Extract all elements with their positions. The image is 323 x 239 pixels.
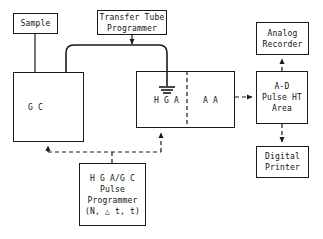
node-hga-gc-pulse-programmer-line1: H G A/G C — [90, 173, 135, 184]
node-ad-line3: Area — [272, 103, 292, 114]
connector-transfer-tube — [66, 45, 167, 72]
node-sample[interactable]: Sample — [13, 13, 58, 34]
node-transfer-tube-programmer-line2: Programmer — [107, 23, 157, 34]
node-hga-gc-pulse-programmer-line2: Pulse — [100, 184, 125, 195]
node-gc-label: G C — [14, 102, 43, 113]
node-gc[interactable]: G C — [13, 72, 84, 142]
node-hga-aa[interactable]: H G A A A — [136, 71, 235, 128]
node-transfer-tube-programmer[interactable]: Transfer Tube Programmer — [97, 10, 167, 35]
node-aa-label: A A — [203, 94, 218, 105]
node-transfer-tube-programmer-line1: Transfer Tube — [99, 12, 164, 23]
node-sample-label: Sample — [20, 18, 50, 29]
node-analog-recorder[interactable]: Analog Recorder — [256, 22, 309, 55]
node-hga-gc-pulse-programmer-line4: (N, △ t, t) — [85, 206, 140, 217]
node-ad-line1: A-D — [274, 81, 289, 92]
block-diagram-canvas: Sample Transfer Tube Programmer G C H G … — [0, 0, 323, 239]
node-hga-gc-pulse-programmer[interactable]: H G A/G C Pulse Programmer (N, △ t, t) — [79, 163, 146, 226]
node-hga-gc-pulse-programmer-line3: Programmer — [87, 195, 137, 206]
node-digital-printer[interactable]: Digital Printer — [256, 146, 309, 178]
node-ad-pulse-ht-area[interactable]: A-D Pulse HT Area — [256, 71, 308, 124]
node-ad-line2: Pulse HT — [262, 92, 302, 103]
node-analog-recorder-line2: Recorder — [262, 39, 302, 50]
node-digital-printer-line2: Printer — [265, 162, 300, 173]
node-hga-label: H G A — [154, 94, 179, 105]
node-analog-recorder-line1: Analog — [267, 28, 297, 39]
node-digital-printer-line1: Digital — [265, 151, 300, 162]
